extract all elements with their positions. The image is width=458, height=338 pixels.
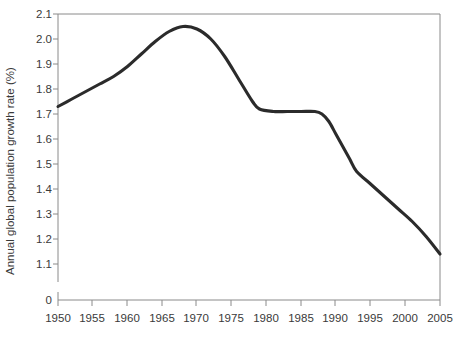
y-tick-label-1.5: 1.5 — [36, 158, 52, 170]
chart-background — [0, 0, 458, 338]
y-tick-label-1.7: 1.7 — [36, 108, 52, 120]
x-tick-label-1970: 1970 — [183, 312, 209, 324]
y-tick-label-2.0: 2.0 — [36, 33, 52, 45]
x-tick-label-1965: 1965 — [149, 312, 175, 324]
x-tick-label-1955: 1955 — [79, 312, 105, 324]
y-tick-label-1.2: 1.2 — [36, 233, 52, 245]
x-tick-label-1995: 1995 — [357, 312, 383, 324]
x-tick-label-1990: 1990 — [322, 312, 348, 324]
y-tick-label-1.1: 1.1 — [36, 258, 52, 270]
y-tick-label-1.6: 1.6 — [36, 133, 52, 145]
y-tick-label-1.3: 1.3 — [36, 208, 52, 220]
x-tick-label-1960: 1960 — [114, 312, 140, 324]
x-tick-label-2005: 2005 — [427, 312, 453, 324]
y-tick-label-zero: 0 — [46, 294, 52, 306]
chart-svg: Annual global population growth rate (%)… — [0, 0, 458, 338]
population-growth-chart: Annual global population growth rate (%)… — [0, 0, 458, 338]
x-tick-label-1950: 1950 — [45, 312, 71, 324]
y-tick-label-1.4: 1.4 — [36, 183, 53, 195]
x-tick-label-2000: 2000 — [392, 312, 418, 324]
x-tick-label-1980: 1980 — [253, 312, 279, 324]
y-tick-label-1.9: 1.9 — [36, 58, 52, 70]
y-tick-label-1.8: 1.8 — [36, 83, 52, 95]
x-tick-label-1975: 1975 — [218, 312, 244, 324]
y-tick-label-2.1: 2.1 — [36, 8, 52, 20]
y-axis-title: Annual global population growth rate (%) — [4, 67, 16, 275]
x-tick-label-1985: 1985 — [288, 312, 314, 324]
